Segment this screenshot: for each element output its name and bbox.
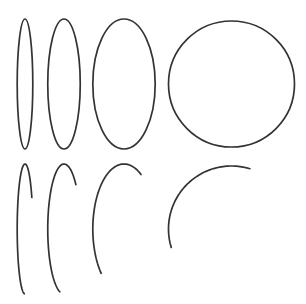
ellipse-shape-3 <box>93 19 155 149</box>
circle-arc <box>169 166 250 247</box>
full-shapes-row <box>17 19 294 149</box>
ellipse-arc-3 <box>93 164 141 273</box>
ellipse-shape-1 <box>17 19 33 149</box>
ellipse-arc-2 <box>48 164 76 292</box>
ellipse-arc-1 <box>17 164 32 294</box>
ellipse-shape-2 <box>48 19 81 149</box>
circle-shape <box>169 21 295 147</box>
ellipse-arc-diagram <box>0 0 306 304</box>
partial-arcs-row <box>17 164 250 294</box>
